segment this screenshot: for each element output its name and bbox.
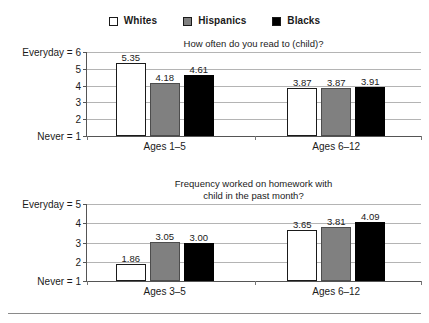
plot-area-homework: Never = 1234Everyday = 51.863.053.00Ages… xyxy=(86,204,421,281)
bar-value-read-0-2: 4.61 xyxy=(190,64,209,75)
x-axis-group-separator-read xyxy=(255,136,256,140)
legend-item-hispanics: Hispanics xyxy=(183,16,246,26)
y-axis-label-read-5: 5 xyxy=(75,63,81,74)
bar-homework-0-hispanics: 3.05 xyxy=(150,242,180,281)
y-tick-read-6 xyxy=(83,52,87,53)
legend-item-blacks: Blacks xyxy=(272,16,320,26)
y-tick-homework-2 xyxy=(83,262,87,263)
bar-homework-1-hispanics: 3.81 xyxy=(321,227,351,281)
x-axis-start-tick-read xyxy=(87,136,88,140)
legend-swatch-hispanics-icon xyxy=(183,17,192,26)
chart-title-homework-line1: Frequency worked on homework with xyxy=(86,178,421,190)
legend-swatch-blacks-icon xyxy=(272,17,281,26)
gridline-homework-5 xyxy=(87,204,421,205)
bar-value-homework-0-0: 1.86 xyxy=(122,253,141,264)
bar-value-homework-1-0: 3.65 xyxy=(293,219,312,230)
x-axis-end-tick-read xyxy=(421,136,422,140)
bar-homework-0-whites: 1.86 xyxy=(116,264,146,281)
x-axis-start-tick-homework xyxy=(87,281,88,285)
bar-read-0-hispanics: 4.18 xyxy=(150,83,180,136)
bar-read-0-whites: 5.35 xyxy=(116,63,146,136)
bar-read-1-hispanics: 3.87 xyxy=(321,88,351,136)
x-axis-end-tick-homework xyxy=(421,281,422,285)
y-tick-homework-3 xyxy=(83,243,87,244)
x-axis-group-label-homework-0: Ages 3–5 xyxy=(144,286,186,297)
chart-title-homework-line2: child in the past month? xyxy=(86,190,421,202)
bar-read-1-blacks: 3.91 xyxy=(355,87,385,136)
bar-value-read-1-0: 3.87 xyxy=(293,77,312,88)
legend-label-whites: Whites xyxy=(124,16,157,26)
y-axis-label-homework-3: 3 xyxy=(75,237,81,248)
y-axis-label-read-2: 2 xyxy=(75,114,81,125)
bar-value-homework-1-1: 3.81 xyxy=(327,216,346,227)
y-tick-read-4 xyxy=(83,86,87,87)
bar-homework-1-blacks: 4.09 xyxy=(355,222,385,281)
chart-title-homework: Frequency worked on homework with child … xyxy=(86,178,421,201)
plot-area-read: Never = 12345Everyday = 65.354.184.61Age… xyxy=(86,52,421,136)
y-axis-label-homework-4: 4 xyxy=(75,218,81,229)
bar-value-read-0-1: 4.18 xyxy=(156,72,175,83)
bar-homework-1-whites: 3.65 xyxy=(287,230,317,281)
y-axis-label-read-1: Never = 1 xyxy=(37,131,81,142)
y-axis-label-read-4: 4 xyxy=(75,80,81,91)
bar-value-read-1-1: 3.87 xyxy=(327,77,346,88)
legend-label-hispanics: Hispanics xyxy=(198,16,246,26)
bar-read-1-whites: 3.87 xyxy=(287,88,317,136)
legend-label-blacks: Blacks xyxy=(287,16,320,26)
y-axis-label-read-6: Everyday = 6 xyxy=(22,47,81,58)
chart-legend: Whites Hispanics Blacks xyxy=(0,16,429,26)
y-tick-read-3 xyxy=(83,102,87,103)
bar-value-homework-0-1: 3.05 xyxy=(156,231,175,242)
footer-divider xyxy=(8,313,421,314)
x-axis-group-label-read-1: Ages 6–12 xyxy=(312,141,360,152)
y-axis-label-homework-5: Everyday = 5 xyxy=(22,199,81,210)
y-tick-homework-5 xyxy=(83,204,87,205)
y-tick-homework-4 xyxy=(83,223,87,224)
bar-value-read-1-2: 3.91 xyxy=(361,76,380,87)
x-axis-group-separator-homework xyxy=(255,281,256,285)
legend-item-whites: Whites xyxy=(109,16,157,26)
y-axis-label-homework-2: 2 xyxy=(75,256,81,267)
x-axis-group-label-read-0: Ages 1–5 xyxy=(144,141,186,152)
y-tick-read-2 xyxy=(83,119,87,120)
y-axis-label-homework-1: Never = 1 xyxy=(37,276,81,287)
y-axis-label-read-3: 3 xyxy=(75,97,81,108)
bar-read-0-blacks: 4.61 xyxy=(184,75,214,136)
x-axis-group-label-homework-1: Ages 6–12 xyxy=(312,286,360,297)
chart-panel-read: How often do you read to (child)? Never … xyxy=(0,38,429,163)
legend-swatch-whites-icon xyxy=(109,17,118,26)
bar-value-homework-0-2: 3.00 xyxy=(190,232,209,243)
bar-value-homework-1-2: 4.09 xyxy=(361,211,380,222)
chart-title-read: How often do you read to (child)? xyxy=(86,38,421,50)
chart-panel-homework: Frequency worked on homework with child … xyxy=(0,178,429,306)
bar-value-read-0-0: 5.35 xyxy=(122,52,141,63)
y-tick-read-5 xyxy=(83,69,87,70)
bar-homework-0-blacks: 3.00 xyxy=(184,243,214,282)
